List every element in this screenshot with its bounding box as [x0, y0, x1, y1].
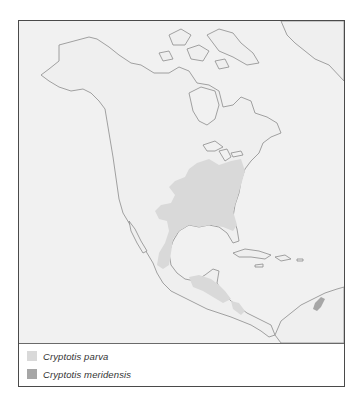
map-figure: Cryptotis parva Cryptotis meridensis — [18, 20, 345, 387]
map-legend: Cryptotis parva Cryptotis meridensis — [19, 344, 344, 386]
north-america-landmass — [41, 37, 281, 337]
legend-label: Cryptotis meridensis — [43, 369, 131, 380]
legend-item-cryptotis-meridensis: Cryptotis meridensis — [27, 367, 131, 381]
greenland-landmass — [281, 21, 344, 81]
legend-swatch-light-gray — [27, 351, 37, 361]
map-canvas — [19, 21, 344, 343]
legend-swatch-dark-gray — [27, 369, 37, 379]
range-map — [19, 21, 344, 344]
south-america-landmass — [275, 287, 344, 343]
legend-item-cryptotis-parva: Cryptotis parva — [27, 349, 108, 363]
legend-label: Cryptotis parva — [43, 351, 108, 362]
